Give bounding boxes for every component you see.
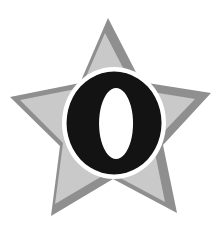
logo-canvas: O xyxy=(0,0,224,229)
logo-graphic: O xyxy=(0,0,224,229)
